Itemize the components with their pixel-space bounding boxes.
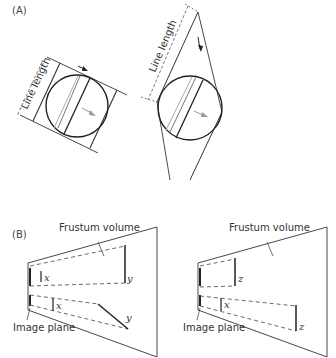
rect-right-edge xyxy=(90,90,117,148)
dash-tick-bottom xyxy=(141,97,157,102)
frustum-outline xyxy=(198,227,327,357)
var-z-lower: z xyxy=(298,321,305,332)
var-y-upper: y xyxy=(126,273,133,284)
var-x-upper: x xyxy=(44,272,50,283)
panel-b-label: (B) xyxy=(12,229,27,240)
frustum-volume-label: Frustum volume xyxy=(229,222,310,233)
scan-line-gray xyxy=(166,77,192,130)
lower-cone-top xyxy=(200,296,296,306)
scan-direction-arrow-head-icon xyxy=(201,112,208,117)
scan-line-mid xyxy=(58,76,80,128)
panel-a-label: (A) xyxy=(12,5,27,16)
frustum-volume-leader xyxy=(98,242,104,256)
frustum-outline xyxy=(28,227,157,357)
rect-bottom-edge xyxy=(20,115,98,153)
frustum-volume-label: Frustum volume xyxy=(59,222,140,233)
panel-b-left-figure: Frustum volume x y x y Image plane xyxy=(13,222,157,357)
motion-arrow-head-icon xyxy=(198,45,203,52)
frustum-volume-leader xyxy=(267,242,273,256)
scan-line-dark xyxy=(64,78,90,134)
diagram-canvas: (A) Line length Line length xyxy=(0,0,336,358)
upper-cone-bottom xyxy=(30,283,125,286)
panel-b-right-figure: Frustum volume z x z Image plane xyxy=(183,222,327,357)
diamond-lower-right-edge xyxy=(190,112,222,180)
var-y-lower: y xyxy=(125,312,132,323)
motion-arrow-head-icon xyxy=(82,66,88,71)
scan-line-gray xyxy=(54,76,78,128)
image-plane-label: Image plane xyxy=(183,322,245,333)
var-x-lower: x xyxy=(224,299,230,310)
panel-a-right-figure: Line length xyxy=(141,4,222,180)
panel-a-left-figure: Line length xyxy=(17,56,127,153)
scan-line-dark xyxy=(176,80,203,138)
upper-cone-top xyxy=(200,259,235,266)
image-plane-label: Image plane xyxy=(13,322,75,333)
diamond-upper-right-edge xyxy=(198,12,222,112)
var-x-lower: x xyxy=(56,300,62,311)
upper-cone-bottom xyxy=(200,286,235,287)
lower-cone-top xyxy=(30,295,98,304)
scan-direction-arrow-head-icon xyxy=(89,110,96,116)
var-z-upper: z xyxy=(237,273,244,284)
line-length-label: Line length xyxy=(19,56,53,111)
